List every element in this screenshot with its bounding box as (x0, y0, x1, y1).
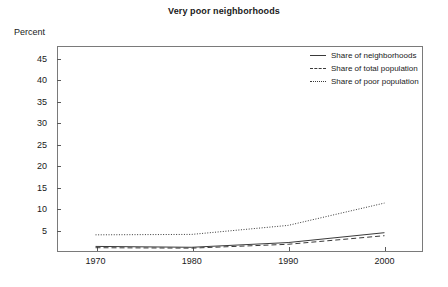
y-tick-label: 35 (25, 97, 47, 107)
legend-label: Share of poor population (331, 77, 419, 86)
legend-item-neighborhoods: Share of neighborhoods (310, 49, 418, 61)
legend-item-total-population: Share of total population (310, 62, 418, 74)
y-tick-mark (57, 80, 61, 81)
y-tick-mark (57, 145, 61, 146)
y-tick-mark (57, 231, 61, 232)
y-axis: 51015202530354045 (0, 0, 57, 287)
y-tick-mark (57, 188, 61, 189)
y-tick-mark (57, 59, 61, 60)
y-tick-mark (57, 166, 61, 167)
y-tick-label: 30 (25, 118, 47, 128)
legend-line-dotted-icon (310, 77, 326, 85)
legend-label: Share of neighborhoods (331, 51, 416, 60)
y-tick-label: 25 (25, 140, 47, 150)
y-tick-label: 45 (25, 54, 47, 64)
y-tick-label: 10 (25, 204, 47, 214)
chart-page: Very poor neighborhoods Percent 51015202… (0, 0, 448, 287)
y-tick-mark (57, 209, 61, 210)
chart-legend: Share of neighborhoods Share of total po… (310, 49, 418, 88)
y-tick-mark (57, 102, 61, 103)
y-tick-label: 40 (25, 75, 47, 85)
x-tick-label: 1990 (278, 256, 298, 266)
legend-item-poor-population: Share of poor population (310, 75, 418, 87)
legend-line-dashed-icon (310, 64, 326, 72)
y-tick-mark (57, 123, 61, 124)
chart-title: Very poor neighborhoods (0, 6, 448, 16)
legend-line-solid-icon (310, 51, 326, 59)
x-tick-label: 2000 (374, 256, 394, 266)
y-tick-label: 20 (25, 161, 47, 171)
legend-label: Share of total population (331, 64, 418, 73)
x-tick-label: 1970 (86, 256, 106, 266)
y-tick-label: 5 (25, 226, 47, 236)
x-tick-label: 1980 (182, 256, 202, 266)
y-tick-label: 15 (25, 183, 47, 193)
